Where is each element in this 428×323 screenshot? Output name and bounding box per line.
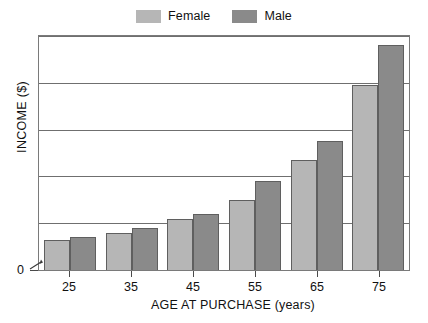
bar-female-55[interactable] <box>229 200 255 270</box>
bar-female-45[interactable] <box>167 219 193 270</box>
x-axis-label-75: 75 <box>348 280 410 295</box>
legend-swatch-male <box>232 10 257 23</box>
legend-swatch-female <box>136 10 161 23</box>
x-axis-label-25: 25 <box>38 280 100 295</box>
y-axis-zero-label: 0 <box>17 263 24 277</box>
bar-male-75[interactable] <box>378 45 404 270</box>
bar-groups <box>39 36 409 270</box>
axis-break-arrow-icon <box>29 258 45 272</box>
legend-label-female: Female <box>168 10 210 23</box>
x-axis-label-55: 55 <box>224 280 286 295</box>
tick-mark <box>317 271 318 277</box>
x-tick-45 <box>162 271 224 277</box>
bar-female-75[interactable] <box>352 85 378 270</box>
x-axis-labels: 253545556575 <box>38 280 410 295</box>
x-axis-label-65: 65 <box>286 280 348 295</box>
bar-male-45[interactable] <box>193 214 219 270</box>
bar-group <box>162 36 224 270</box>
bar-group <box>224 36 286 270</box>
x-axis-label-45: 45 <box>162 280 224 295</box>
tick-mark <box>255 271 256 277</box>
plot-area <box>38 35 410 271</box>
bar-female-35[interactable] <box>106 233 132 270</box>
bar-group <box>347 36 409 270</box>
tick-mark <box>193 271 194 277</box>
tick-mark <box>131 271 132 277</box>
bar-female-25[interactable] <box>44 240 70 270</box>
x-tick-65 <box>286 271 348 277</box>
tick-mark <box>379 271 380 277</box>
bar-male-25[interactable] <box>70 237 96 270</box>
legend-label-male: Male <box>264 10 292 23</box>
chart-legend: Female Male <box>0 10 428 23</box>
bar-group <box>286 36 348 270</box>
bar-male-65[interactable] <box>317 141 343 270</box>
x-tick-55 <box>224 271 286 277</box>
x-tick-25 <box>38 271 100 277</box>
x-tick-75 <box>348 271 410 277</box>
x-axis-label-35: 35 <box>100 280 162 295</box>
bar-female-65[interactable] <box>291 160 317 270</box>
legend-item-male: Male <box>232 10 292 23</box>
bar-group <box>101 36 163 270</box>
legend-item-female: Female <box>136 10 210 23</box>
y-axis-title: INCOME ($) <box>15 7 29 227</box>
x-axis-title: AGE AT PURCHASE (years) <box>0 298 428 313</box>
bar-male-35[interactable] <box>132 228 158 270</box>
tick-mark <box>69 271 70 277</box>
bar-male-55[interactable] <box>255 181 281 270</box>
bar-group <box>39 36 101 270</box>
x-tick-35 <box>100 271 162 277</box>
x-axis-ticks <box>38 271 410 277</box>
